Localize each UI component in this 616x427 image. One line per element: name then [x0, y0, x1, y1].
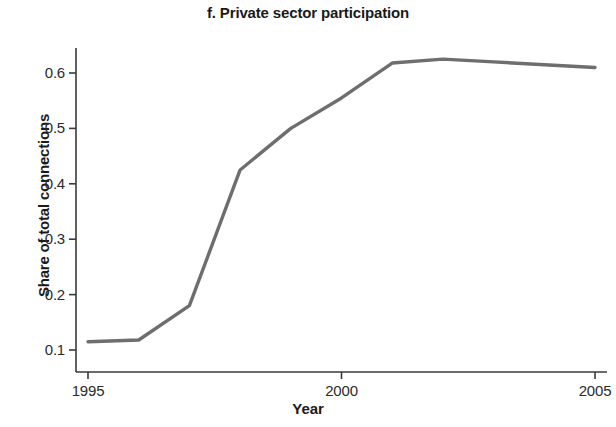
plot-area — [0, 0, 616, 427]
x-axis-ticks — [88, 372, 595, 379]
data-series-line — [88, 59, 595, 342]
chart-figure: f. Private sector participation Share of… — [0, 0, 616, 427]
y-axis-ticks — [69, 73, 76, 350]
axes — [69, 48, 607, 379]
